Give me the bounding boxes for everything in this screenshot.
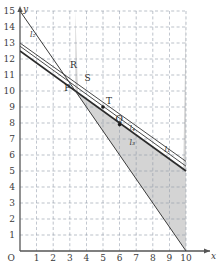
x-tick-label: 9	[167, 253, 173, 262]
line-label-l1: l₁	[164, 145, 170, 154]
line-label-l4: l₄	[130, 124, 136, 133]
y-tick-label: 1	[9, 230, 15, 240]
point-label-P: P	[64, 83, 70, 93]
y-tick-label: 5	[9, 166, 15, 176]
y-tick-label: 4	[9, 182, 15, 192]
point-marker-T	[101, 105, 105, 109]
x-axis-label: x	[211, 251, 216, 261]
line-label-l3: l₃	[130, 138, 136, 147]
constraint-line-l2	[20, 11, 186, 251]
y-tick-label: 9	[9, 102, 15, 112]
y-tick-label: 12	[4, 54, 15, 64]
point-label-S: S	[84, 73, 90, 83]
line-label-l2: l₂	[30, 30, 36, 39]
constraint-lines	[20, 11, 186, 251]
point-label-T: T	[106, 96, 112, 106]
x-tick-label: 3	[67, 253, 73, 262]
y-tick-label: 6	[9, 150, 15, 160]
y-tick-label: 3	[9, 198, 15, 208]
x-tick-label: 6	[117, 253, 123, 262]
y-tick-label: 15	[4, 6, 16, 16]
x-tick-label: 7	[133, 253, 139, 262]
x-tick-label: 4	[84, 253, 90, 262]
y-tick-label: 11	[4, 70, 15, 80]
x-tick-label: 10	[180, 253, 192, 262]
y-tick-label: 7	[9, 134, 15, 144]
point-label-R: R	[70, 60, 77, 70]
x-tick-label: 1	[34, 253, 40, 262]
y-axis-label: y	[22, 4, 29, 14]
y-tick-label: 14	[4, 22, 16, 32]
plot-svg: 12345678910123456789101112131415Oxyl₁l₂l…	[0, 0, 217, 262]
y-tick-label: 8	[9, 118, 15, 128]
linear-programming-graph: 12345678910123456789101112131415Oxyl₁l₂l…	[0, 0, 217, 262]
point-label-Q: Q	[116, 114, 123, 124]
y-tick-label: 2	[9, 214, 15, 224]
y-tick-label: 10	[4, 86, 16, 96]
x-tick-label: 5	[100, 253, 106, 262]
x-tick-label: 8	[150, 253, 156, 262]
origin-label: O	[8, 253, 15, 262]
y-tick-label: 13	[4, 38, 16, 48]
x-tick-label: 2	[50, 253, 56, 262]
